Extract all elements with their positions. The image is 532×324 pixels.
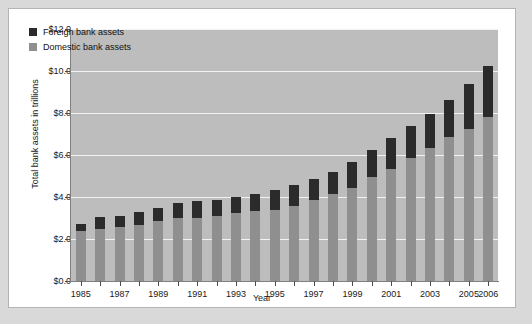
x-tick-label: 1993 <box>226 289 246 299</box>
bar-segment-domestic <box>406 158 416 281</box>
x-tick-label: 1997 <box>304 289 324 299</box>
bar-segment-domestic <box>76 231 86 281</box>
bar-segment-foreign <box>231 197 241 213</box>
x-tick-label: 2001 <box>381 289 401 299</box>
x-tick-mark <box>275 281 276 286</box>
y-tick-label: $8.0 <box>15 108 71 118</box>
bar-2004 <box>444 100 454 281</box>
x-tick-mark <box>333 281 334 286</box>
bar-1990 <box>173 203 183 281</box>
x-tick-mark <box>430 281 431 286</box>
bar-segment-domestic <box>328 194 338 281</box>
bar-segment-foreign <box>289 185 299 206</box>
legend-item: Foreign bank assets <box>29 27 131 37</box>
bar-segment-foreign <box>173 203 183 218</box>
bar-segment-foreign <box>115 216 125 228</box>
bar-segment-foreign <box>386 138 396 168</box>
bar-segment-foreign <box>464 84 474 129</box>
bar-segment-foreign <box>328 172 338 194</box>
x-tick-mark <box>372 281 373 286</box>
chart-legend: Foreign bank assetsDomestic bank assets <box>29 27 131 57</box>
x-tick-label: 1985 <box>71 289 91 299</box>
bar-segment-foreign <box>192 201 202 218</box>
bar-segment-domestic <box>309 200 319 281</box>
bar-segment-foreign <box>153 208 163 222</box>
x-tick-mark <box>488 281 489 286</box>
bar-1989 <box>153 208 163 282</box>
bar-1996 <box>289 185 299 281</box>
bar-segment-domestic <box>483 117 493 281</box>
x-tick-mark <box>352 281 353 286</box>
bar-2001 <box>386 138 396 281</box>
x-tick-mark <box>100 281 101 286</box>
bar-segment-foreign <box>483 66 493 117</box>
bar-segment-domestic <box>231 213 241 281</box>
x-tick-label: 1987 <box>110 289 130 299</box>
bar-segment-foreign <box>347 162 357 187</box>
bar-segment-foreign <box>444 100 454 137</box>
x-tick-label: 2006 <box>478 289 498 299</box>
bar-1987 <box>115 216 125 281</box>
x-tick-mark <box>178 281 179 286</box>
bar-2005 <box>464 84 474 281</box>
x-tick-mark <box>158 281 159 286</box>
bar-segment-domestic <box>212 216 222 281</box>
legend-swatch-icon <box>29 28 37 36</box>
bar-1997 <box>309 179 319 281</box>
bar-segment-foreign <box>367 150 377 177</box>
bar-segment-domestic <box>289 206 299 281</box>
bar-1995 <box>270 190 280 281</box>
bar-2002 <box>406 126 416 281</box>
bar-1993 <box>231 197 241 281</box>
bar-segment-foreign <box>250 194 260 211</box>
bar-segment-foreign <box>406 126 416 159</box>
x-tick-mark <box>217 281 218 286</box>
x-tick-mark <box>236 281 237 286</box>
x-axis-line <box>70 281 499 282</box>
x-tick-mark <box>314 281 315 286</box>
legend-label: Foreign bank assets <box>43 27 124 37</box>
x-tick-label: 1999 <box>342 289 362 299</box>
bar-segment-domestic <box>444 137 454 281</box>
bar-2003 <box>425 114 435 281</box>
bar-segment-foreign <box>425 114 435 148</box>
y-tick-label: $4.0 <box>15 192 71 202</box>
y-tick-label: $6.0 <box>15 150 71 160</box>
bar-1999 <box>347 162 357 281</box>
bar-segment-domestic <box>347 188 357 281</box>
x-tick-mark <box>120 281 121 286</box>
bar-1988 <box>134 212 144 281</box>
bar-segment-domestic <box>192 218 202 281</box>
plot-area <box>71 29 498 281</box>
bar-2000 <box>367 150 377 281</box>
x-tick-mark <box>294 281 295 286</box>
x-tick-mark <box>469 281 470 286</box>
bar-segment-foreign <box>270 190 280 210</box>
bar-segment-domestic <box>464 129 474 281</box>
bar-segment-domestic <box>153 221 163 281</box>
bar-segment-domestic <box>425 148 435 281</box>
bar-segment-domestic <box>173 218 183 281</box>
bar-segment-foreign <box>309 179 319 200</box>
bar-1985 <box>76 224 86 281</box>
x-tick-label: 1989 <box>148 289 168 299</box>
bar-segment-domestic <box>115 227 125 281</box>
bar-segment-domestic <box>367 177 377 281</box>
bar-1992 <box>212 200 222 281</box>
legend-swatch-icon <box>29 43 37 51</box>
bar-1986 <box>95 217 105 281</box>
x-tick-mark <box>81 281 82 286</box>
x-tick-mark <box>449 281 450 286</box>
bar-2006 <box>483 66 493 281</box>
x-tick-mark <box>391 281 392 286</box>
y-tick-label: $2.0 <box>15 234 71 244</box>
gridline <box>71 71 498 72</box>
y-tick-label: $10.0 <box>15 66 71 76</box>
x-tick-label: 1991 <box>187 289 207 299</box>
bar-segment-foreign <box>134 212 144 226</box>
bar-segment-domestic <box>270 210 280 281</box>
bar-segment-domestic <box>386 169 396 281</box>
bar-segment-foreign <box>212 200 222 216</box>
y-tick-label: $0.0 <box>15 276 71 286</box>
x-tick-mark <box>255 281 256 286</box>
